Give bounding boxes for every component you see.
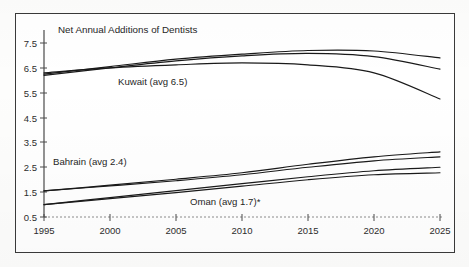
x-tick-label: 1995 [33, 225, 54, 236]
series-line [44, 63, 440, 99]
x-tick-label: 2010 [231, 225, 252, 236]
series-label-bahrain: Bahrain (avg 2.4) [53, 156, 127, 167]
y-tick-label: 0.5 [24, 212, 37, 223]
y-tick-label: 1.5 [24, 187, 37, 198]
x-tick-marks [44, 214, 440, 221]
series-label-kuwait: Kuwait (avg 6.5) [118, 76, 187, 87]
chart-title: Net Annual Additions of Dentists [58, 24, 198, 35]
series-layer [44, 50, 440, 205]
x-tick-label: 2020 [363, 225, 384, 236]
y-tick-label: 3.5 [24, 137, 37, 148]
x-tick-label: 2000 [99, 225, 120, 236]
chart-figure: 7.5 6.5 5.5 4.5 3.5 2.5 1.5 0.5 1995 200… [0, 0, 469, 267]
line-chart: 7.5 6.5 5.5 4.5 3.5 2.5 1.5 0.5 1995 200… [0, 0, 469, 267]
y-tick-label: 7.5 [24, 38, 37, 49]
x-tick-label: 2015 [297, 225, 318, 236]
series-label-oman: Oman (avg 1.7)* [190, 196, 261, 207]
x-tick-label: 2005 [165, 225, 186, 236]
y-tick-label: 2.5 [24, 162, 37, 173]
y-tick-label: 6.5 [24, 63, 37, 74]
x-tick-label: 2025 [429, 225, 450, 236]
series-line [44, 53, 440, 75]
y-tick-label: 5.5 [24, 88, 37, 99]
y-tick-label: 4.5 [24, 113, 37, 124]
series-line [44, 50, 440, 74]
